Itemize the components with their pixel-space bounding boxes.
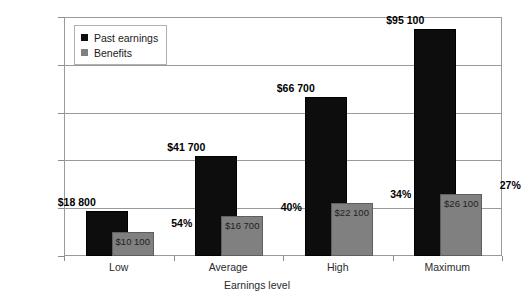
value-label-benefits: $22 100 [317,208,387,218]
ratio-label: 27% [480,180,526,191]
x-tick-mark [502,256,503,261]
x-tick-label: Maximum [387,262,507,274]
value-label-past-earnings: $66 700 [241,83,351,94]
x-tick-mark [64,256,65,261]
legend-item-past-earnings: Past earnings [81,30,158,45]
ratio-label: 54% [152,218,212,229]
value-label-past-earnings: $18 800 [22,197,132,208]
legend-item-benefits: Benefits [81,45,158,60]
value-label-past-earnings: $95 100 [350,15,460,26]
value-label-past-earnings: $41 700 [131,142,241,153]
legend-label-benefits: Benefits [94,47,132,59]
ratio-label: 34% [371,189,431,200]
value-label-benefits: $10 100 [98,237,168,247]
x-tick-label: Low [59,262,179,274]
dark-square-swatch [81,34,88,41]
value-label-benefits: $26 100 [426,199,496,209]
x-tick-mark [174,256,175,261]
chart-legend: Past earnings Benefits [74,25,167,65]
x-tick-label: Average [168,262,288,274]
x-tick-mark [283,256,284,261]
x-tick-mark [393,256,394,261]
x-axis-title: Earnings level [0,279,514,291]
legend-label-past-earnings: Past earnings [94,32,158,44]
ratio-label: 40% [261,202,321,213]
x-tick-label: High [278,262,398,274]
gray-square-swatch [81,49,88,56]
value-label-benefits: $16 700 [207,221,277,231]
